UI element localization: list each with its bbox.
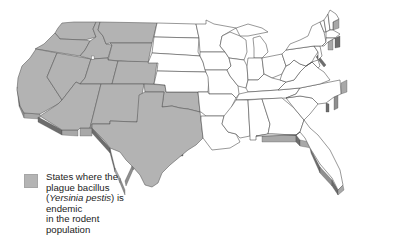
- legend-line-6: population: [46, 225, 146, 236]
- state-montana: [98, 22, 157, 44]
- state-colorado: [112, 61, 157, 84]
- legend-swatch-endemic: [24, 174, 38, 188]
- legend-species-name: Yersinia pestis: [49, 192, 111, 203]
- location-marker: [92, 56, 95, 59]
- state-wyoming: [108, 43, 152, 63]
- legend-line-1: States where the: [46, 172, 146, 183]
- state-iowa: [200, 52, 231, 70]
- state-washington: [55, 22, 96, 40]
- state-new-york: [286, 22, 326, 50]
- state-nebraska: [148, 53, 206, 72]
- legend-text: States where the plague bacillus (Yersin…: [46, 172, 146, 236]
- state-michigan-upper: [236, 24, 268, 36]
- state-north-dakota: [154, 23, 199, 38]
- legend-paren-close: ) is: [111, 192, 124, 203]
- state-michigan-lower: [253, 36, 268, 58]
